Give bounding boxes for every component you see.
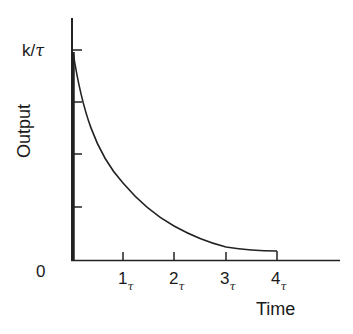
tau-subscript: τ bbox=[127, 280, 133, 293]
x-tick-label-1: 1τ bbox=[118, 270, 134, 287]
x-tick-label-4: 4τ bbox=[271, 270, 287, 287]
y-axis-label: Output bbox=[14, 104, 35, 158]
decay-curve bbox=[73, 52, 277, 251]
tau-subscript: τ bbox=[178, 280, 184, 293]
tau-subscript: τ bbox=[280, 280, 286, 293]
y-max-label: k/τ bbox=[22, 41, 44, 61]
k-text: k/ bbox=[22, 41, 35, 60]
origin-label: 0 bbox=[36, 263, 45, 280]
x-tick-label-2: 2τ bbox=[169, 270, 185, 287]
x-axis-label: Time bbox=[256, 300, 295, 318]
x-tick-label-3: 3τ bbox=[220, 270, 236, 287]
tau-symbol: τ bbox=[35, 41, 44, 60]
tau-subscript: τ bbox=[229, 280, 235, 293]
